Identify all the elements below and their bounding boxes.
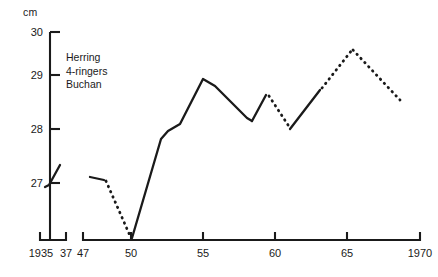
chart-container: cm 30 29 28 27 1935 37 47 50 55 60 65 19… xyxy=(0,0,438,277)
x-tick-label-50: 50 xyxy=(119,247,143,259)
y-axis-unit-label: cm xyxy=(23,6,37,18)
x-axis-left-panel xyxy=(40,232,66,240)
series-line-47-48-solid xyxy=(90,177,104,180)
series-annotation-line-1: Herring xyxy=(66,51,107,65)
y-tick-label-29: 29 xyxy=(13,69,43,81)
x-tick-label-65: 65 xyxy=(335,247,359,259)
series-line-50-59-solid xyxy=(132,79,252,238)
y-tick-label-30: 30 xyxy=(13,26,43,38)
x-tick-label-60: 60 xyxy=(263,247,287,259)
series-line-60-62-dotted xyxy=(269,96,290,128)
series-line-48-50-dotted xyxy=(106,181,131,238)
y-tick-label-28: 28 xyxy=(13,123,43,135)
x-tick-label-1970: 1970 xyxy=(397,247,438,259)
series-line-64-66-dotted xyxy=(322,50,352,88)
series-annotation-line-2: 4-ringers xyxy=(66,65,107,79)
series-line-62-64-solid xyxy=(290,90,320,129)
series-right-1947-1970 xyxy=(90,50,400,238)
series-annotation: Herring 4-ringers Buchan xyxy=(66,51,107,92)
series-annotation-line-3: Buchan xyxy=(66,78,107,92)
chart-plot-area xyxy=(0,0,438,277)
x-tick-label-55: 55 xyxy=(191,247,215,259)
series-line-59-60-solid xyxy=(252,95,266,121)
series-line-66-69-dotted xyxy=(353,50,400,100)
y-tick-label-27: 27 xyxy=(13,177,43,189)
x-tick-label-47: 47 xyxy=(71,247,95,259)
